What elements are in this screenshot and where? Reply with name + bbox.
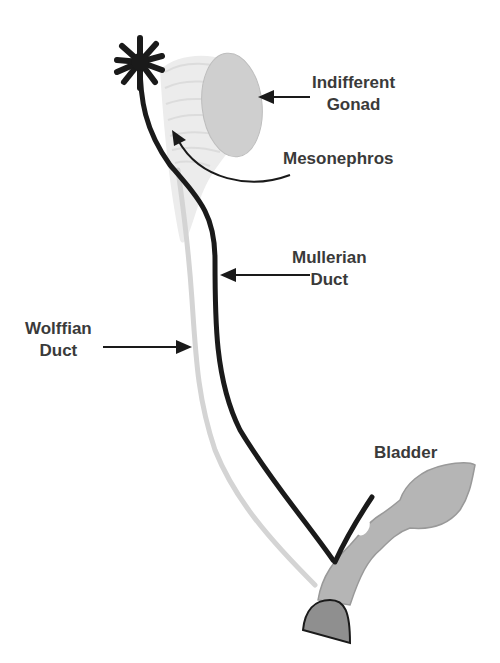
label-mullerian-duct-line1: Mullerian bbox=[292, 247, 367, 269]
label-indifferent-gonad-line1: Indifferent bbox=[312, 72, 395, 94]
label-indifferent-gonad: Indifferent Gonad bbox=[312, 72, 395, 116]
fimbriae-icon bbox=[117, 38, 162, 88]
bladder-shape bbox=[318, 463, 475, 605]
label-mullerian-duct-line2: Duct bbox=[292, 269, 367, 291]
arrow-indifferent-gonad bbox=[258, 90, 310, 104]
label-wolffian-duct-line1: Wolffian bbox=[25, 318, 92, 340]
label-wolffian-duct-line2: Duct bbox=[25, 340, 92, 362]
label-wolffian-duct: Wolffian Duct bbox=[25, 318, 92, 362]
arrow-wolffian-duct bbox=[103, 340, 192, 354]
label-bladder-line1: Bladder bbox=[374, 442, 437, 464]
label-mesonephros: Mesonephros bbox=[283, 148, 394, 170]
wolffian-duct-line bbox=[178, 170, 315, 585]
urethra-cap bbox=[303, 600, 350, 643]
label-bladder: Bladder bbox=[374, 442, 437, 464]
label-mesonephros-line1: Mesonephros bbox=[283, 148, 394, 170]
label-mullerian-duct: Mullerian Duct bbox=[292, 247, 367, 291]
label-indifferent-gonad-line2: Gonad bbox=[312, 94, 395, 116]
